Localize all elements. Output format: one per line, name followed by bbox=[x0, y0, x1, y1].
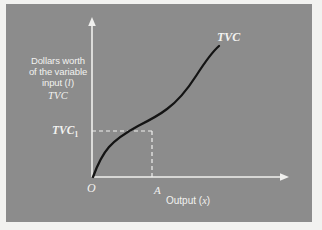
plot-panel: Dollars worth of the variable input (l) … bbox=[6, 4, 312, 222]
y-axis-caption: Dollars worth of the variable input (l) … bbox=[22, 55, 94, 102]
tvc-curve bbox=[93, 46, 219, 177]
figure-root: Dollars worth of the variable input (l) … bbox=[0, 0, 322, 230]
y-axis-caption-line-3-prefix: input ( bbox=[42, 77, 68, 88]
tvc1-axis-label-main: TVC bbox=[52, 124, 74, 136]
x-axis-caption-suffix: ) bbox=[207, 195, 210, 206]
x-axis-caption-prefix: Output ( bbox=[166, 195, 202, 206]
y-axis-arrowhead bbox=[88, 17, 96, 26]
y-axis-caption-line-4: TVC bbox=[22, 90, 94, 102]
x-axis-arrowhead bbox=[280, 173, 289, 180]
y-axis-caption-line-3: input (l) bbox=[22, 77, 94, 89]
y-axis-caption-line-2: of the variable bbox=[22, 66, 94, 77]
y-axis-caption-line-3-suffix: ) bbox=[71, 77, 74, 88]
origin-label: O bbox=[87, 181, 96, 195]
y-axis-caption-line-1: Dollars worth bbox=[22, 55, 94, 66]
output-a-label: A bbox=[154, 184, 161, 197]
x-axis-caption: Output (x) bbox=[166, 195, 210, 207]
tvc-curve-label: TVC bbox=[217, 30, 240, 44]
tvc1-axis-label: TVC1 bbox=[52, 124, 78, 140]
tvc1-axis-label-index: 1 bbox=[74, 130, 78, 139]
